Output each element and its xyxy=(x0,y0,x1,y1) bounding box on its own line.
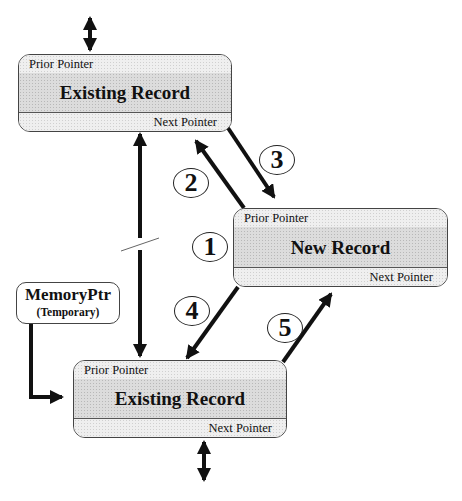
record-title: Existing Record xyxy=(74,379,286,419)
existing-record-bottom: Prior Pointer Existing Record Next Point… xyxy=(73,360,287,438)
memory-pointer-box: MemoryPtr (Temporary) xyxy=(16,282,120,324)
step-5-badge: 5 xyxy=(267,313,303,343)
existing-record-top: Prior Pointer Existing Record Next Point… xyxy=(18,54,232,132)
step-1-badge: 1 xyxy=(192,232,228,262)
next-pointer-label: Next Pointer xyxy=(208,419,272,437)
step-4-badge: 4 xyxy=(174,296,210,326)
record-title: New Record xyxy=(234,227,447,268)
prior-pointer-label: Prior Pointer xyxy=(84,361,148,379)
next-pointer-field: Next Pointer xyxy=(234,267,447,286)
next-pointer-field: Next Pointer xyxy=(74,418,286,437)
memory-pointer-title: MemoryPtr xyxy=(17,285,119,305)
new-record: Prior Pointer New Record Next Pointer xyxy=(233,208,448,287)
memory-pointer-arrow xyxy=(31,323,62,397)
next-pointer-field: Next Pointer xyxy=(19,112,231,131)
step-3-badge: 3 xyxy=(259,145,295,175)
prior-pointer-label: Prior Pointer xyxy=(244,209,308,227)
record-title: Existing Record xyxy=(19,73,231,113)
broken-existing-link-arrow xyxy=(121,134,159,356)
step-2-badge: 2 xyxy=(173,168,209,198)
prior-pointer-label: Prior Pointer xyxy=(29,55,93,73)
next-pointer-label: Next Pointer xyxy=(369,268,433,286)
prior-pointer-field: Prior Pointer xyxy=(74,361,286,380)
prior-pointer-field: Prior Pointer xyxy=(234,209,447,228)
linked-list-diagram: Prior Pointer Existing Record Next Point… xyxy=(0,0,462,501)
memory-pointer-subtitle: (Temporary) xyxy=(17,305,119,319)
next-pointer-label: Next Pointer xyxy=(153,113,217,131)
prior-pointer-field: Prior Pointer xyxy=(19,55,231,74)
